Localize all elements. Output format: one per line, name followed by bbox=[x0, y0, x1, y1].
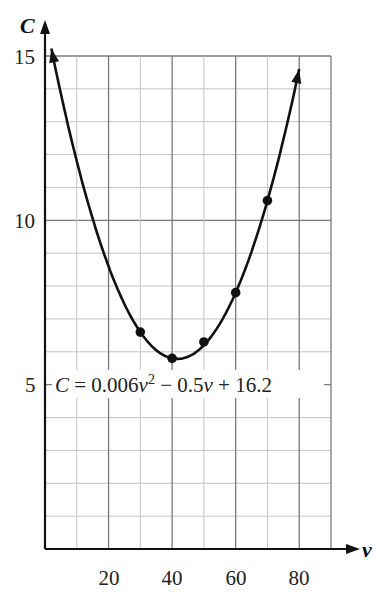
data-point bbox=[263, 196, 273, 206]
x-tick-40: 40 bbox=[162, 566, 183, 590]
y-tick-5: 5 bbox=[25, 373, 36, 397]
x-tick-80: 80 bbox=[289, 566, 310, 590]
quadratic-cost-chart: C v 15 10 5 20 40 60 80 C = 0.006v2 − 0.… bbox=[0, 0, 388, 604]
axes bbox=[40, 20, 360, 554]
data-point bbox=[199, 337, 209, 347]
x-tick-20: 20 bbox=[99, 566, 120, 590]
y-axis-label: C bbox=[20, 13, 35, 38]
data-point bbox=[136, 327, 146, 337]
x-axis-label: v bbox=[362, 537, 372, 562]
equation-label: C = 0.006v2 − 0.5v + 16.2 bbox=[55, 372, 272, 397]
curve-path bbox=[51, 49, 299, 359]
grid bbox=[45, 56, 331, 549]
y-axis-arrow-icon bbox=[40, 20, 50, 34]
data-point bbox=[167, 354, 177, 364]
parabola-curve bbox=[49, 49, 301, 359]
y-tick-15: 15 bbox=[14, 45, 35, 69]
data-point bbox=[231, 288, 241, 298]
y-tick-10: 10 bbox=[14, 209, 35, 233]
x-axis-arrow-icon bbox=[346, 544, 360, 554]
x-tick-60: 60 bbox=[226, 566, 247, 590]
